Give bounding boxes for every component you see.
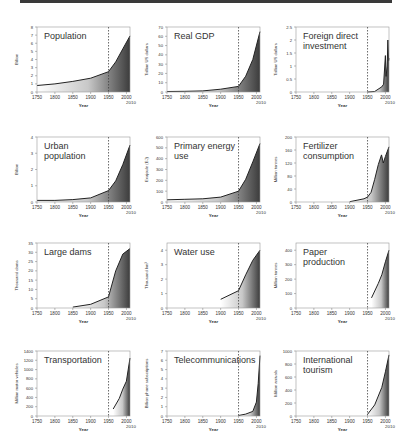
- x-axis-label: Year: [79, 427, 89, 431]
- y-tick-label: 1: [290, 64, 293, 69]
- x-end-label: 2010: [126, 100, 136, 105]
- y-tick-label: 1000: [24, 367, 34, 372]
- x-axis-label: Year: [209, 427, 219, 431]
- y-tick-label: 100: [156, 189, 164, 194]
- y-tick-label: 400: [285, 388, 293, 393]
- x-tick-label: 1750: [162, 205, 173, 210]
- chart-title: consumption: [303, 151, 354, 161]
- y-tick-label: 2: [31, 73, 34, 78]
- y-tick-label: 1200: [24, 358, 34, 363]
- y-axis-label: Thousand km³: [144, 262, 149, 289]
- x-tick-label: 1850: [198, 311, 209, 316]
- x-tick-label: 1950: [233, 95, 244, 100]
- y-axis-label: Million tonnes: [273, 263, 278, 289]
- area-fill: [350, 147, 389, 202]
- x-tick-label: 1950: [233, 311, 244, 316]
- x-tick-label: 1950: [103, 95, 114, 100]
- y-tick-label: 6: [161, 358, 164, 363]
- x-end-label: 2010: [126, 316, 136, 321]
- x-end-label: 2010: [256, 100, 266, 105]
- x-tick-label: 1900: [86, 205, 97, 210]
- y-tick-label: 4: [161, 376, 164, 381]
- x-tick-label: 1900: [216, 311, 227, 316]
- x-tick-label: 1750: [291, 419, 302, 424]
- y-tick-label: 0: [290, 90, 293, 95]
- y-tick-label: 1: [31, 81, 34, 86]
- y-axis-label: Million tonnes: [273, 157, 278, 183]
- x-tick-label: 1900: [86, 419, 97, 424]
- y-tick-label: 3: [161, 262, 164, 267]
- x-tick-label: 1800: [309, 419, 320, 424]
- x-tick-label: 1800: [309, 205, 320, 210]
- chart-title: Transportation: [44, 355, 102, 365]
- y-tick-label: 40: [158, 52, 163, 57]
- x-tick-label: 1750: [32, 419, 43, 424]
- chart-title: Foreign direct: [303, 31, 359, 41]
- x-axis-label: Year: [338, 213, 348, 218]
- y-tick-label: 0: [31, 90, 34, 95]
- area-fill: [37, 36, 130, 92]
- x-end-label: 2010: [385, 100, 395, 105]
- y-tick-label: 4: [31, 135, 34, 140]
- x-tick-label: 1900: [86, 95, 97, 100]
- chart-title: population: [44, 151, 86, 161]
- x-tick-label: 1950: [233, 205, 244, 210]
- y-axis-label: Million motor vehicles: [14, 363, 19, 403]
- chart-panel-international-tourism: 0200400600800100017501800185019001950200…: [273, 349, 395, 431]
- x-tick-label: 1850: [198, 419, 209, 424]
- x-tick-label: 1850: [327, 205, 338, 210]
- x-tick-label: 1750: [32, 95, 43, 100]
- y-tick-label: 80: [287, 174, 292, 179]
- y-tick-label: 2.5: [286, 25, 292, 30]
- chart-title: production: [303, 257, 345, 267]
- y-tick-label: 1: [31, 183, 34, 188]
- chart-panel-population: 0123456781750180018501900195020002010Yea…: [14, 25, 136, 109]
- area-fill: [113, 358, 130, 416]
- x-tick-label: 1800: [50, 205, 61, 210]
- x-tick-label: 1900: [345, 419, 356, 424]
- y-tick-label: 5: [31, 296, 34, 301]
- chart-title: Fertilizer: [303, 141, 338, 151]
- y-tick-label: 2: [161, 395, 164, 400]
- y-tick-label: 20: [158, 71, 163, 76]
- y-tick-label: 120: [285, 161, 293, 166]
- chart-title: Large dams: [44, 247, 92, 257]
- y-tick-label: 0: [31, 306, 34, 311]
- x-axis-label: Year: [79, 213, 89, 218]
- x-tick-label: 1800: [180, 419, 191, 424]
- x-tick-label: 1800: [50, 311, 61, 316]
- y-tick-label: 200: [26, 404, 34, 409]
- x-axis-label: Year: [209, 319, 219, 324]
- y-tick-label: 200: [285, 401, 293, 406]
- y-tick-label: 50: [158, 43, 163, 48]
- y-tick-label: 800: [26, 376, 34, 381]
- y-tick-label: 2: [161, 277, 164, 282]
- x-end-label: 2010: [385, 210, 395, 215]
- chart-title: use: [174, 151, 189, 161]
- x-tick-label: 1800: [180, 311, 191, 316]
- x-axis-label: Year: [79, 319, 89, 324]
- y-tick-label: 0: [161, 414, 164, 419]
- y-tick-label: 400: [26, 395, 34, 400]
- chart-title: tourism: [303, 365, 333, 375]
- x-tick-label: 1750: [32, 205, 43, 210]
- x-tick-label: 1900: [216, 205, 227, 210]
- y-tick-label: 4: [161, 248, 164, 253]
- x-tick-label: 1750: [291, 311, 302, 316]
- x-tick-label: 1750: [162, 311, 173, 316]
- area-fill: [368, 355, 390, 416]
- x-end-label: 2010: [256, 424, 266, 429]
- chart-title: Urban: [44, 141, 69, 151]
- x-end-label: 2010: [385, 316, 395, 321]
- x-tick-label: 1850: [198, 205, 209, 210]
- x-end-label: 2010: [385, 424, 395, 429]
- y-tick-label: 15: [28, 278, 33, 283]
- x-tick-label: 1850: [68, 419, 79, 424]
- y-tick-label: 10: [28, 287, 33, 292]
- x-tick-label: 1750: [162, 419, 173, 424]
- chart-panel-transportation: 0200400600800100012001400175018001850190…: [14, 349, 136, 431]
- y-axis-label: Trillion US dollars: [144, 43, 149, 76]
- y-tick-label: 10: [158, 80, 163, 85]
- x-tick-label: 1900: [216, 95, 227, 100]
- x-tick-label: 1800: [50, 419, 61, 424]
